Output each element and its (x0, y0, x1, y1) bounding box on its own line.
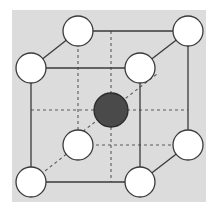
corner-atom-front-bottom-right (125, 167, 155, 197)
corner-atom-back-top-left (63, 16, 93, 46)
corner-atom-front-top-right (125, 53, 155, 83)
center-atom-group (94, 93, 128, 127)
corner-atom-front-bottom-left (16, 167, 46, 197)
corner-atom-back-bottom-left (63, 130, 93, 160)
corner-atom-back-top-right (173, 16, 203, 46)
center-atom-body-centre (94, 93, 128, 127)
corner-atom-back-bottom-right (173, 130, 203, 160)
corner-atom-front-top-left (16, 53, 46, 83)
figure-root (0, 0, 218, 216)
bcc-unit-cell-diagram (0, 0, 218, 216)
